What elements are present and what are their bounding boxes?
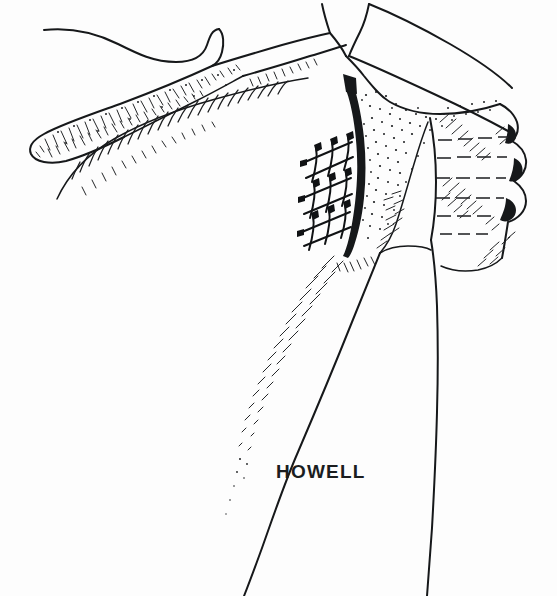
paper-background — [0, 0, 557, 596]
anatomical-illustration: HOWELL — [0, 0, 557, 596]
artist-signature-group: HOWELL — [276, 461, 366, 482]
artist-signature: HOWELL — [276, 461, 366, 482]
illustration-canvas: HOWELL — [0, 0, 557, 596]
